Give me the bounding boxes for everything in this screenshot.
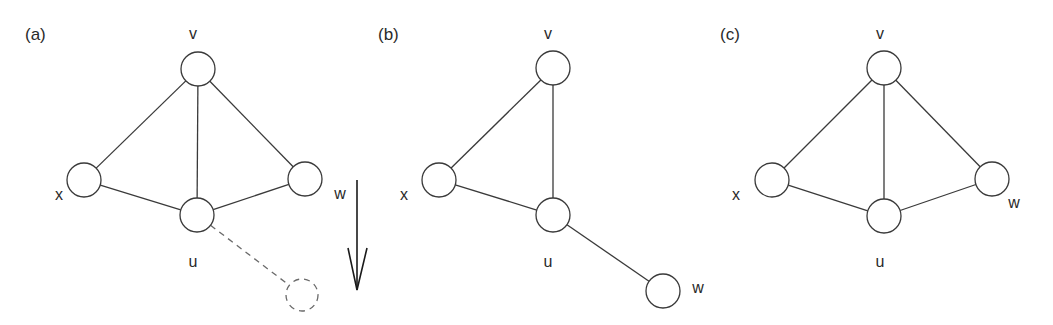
node-label-v: v xyxy=(544,26,552,42)
node-u xyxy=(180,198,214,232)
edge-v-w xyxy=(210,81,293,167)
node-label-u: u xyxy=(876,254,885,270)
panel-label-a: (a) xyxy=(25,26,46,43)
edge-v-x xyxy=(96,81,186,168)
node-label-v: v xyxy=(189,26,197,42)
node-w xyxy=(646,274,680,308)
node-label-w: w xyxy=(1008,195,1020,211)
node-v xyxy=(536,51,570,85)
edge-x-u xyxy=(788,185,868,211)
node-u xyxy=(536,198,570,232)
node-label-u: u xyxy=(544,254,553,270)
panel-label-c: (c) xyxy=(720,26,740,43)
node-label-x: x xyxy=(400,187,408,203)
edge-x-u xyxy=(100,185,181,210)
node-x xyxy=(755,163,789,197)
node-v xyxy=(867,51,901,85)
node-u xyxy=(867,199,901,233)
panel-label-b: (b) xyxy=(378,26,399,43)
edge-x-u xyxy=(455,185,536,210)
node-w xyxy=(975,162,1009,196)
edge-v-w xyxy=(896,80,980,167)
edge-u-w xyxy=(213,184,289,209)
graph-canvas xyxy=(0,0,1053,325)
node-label-w: w xyxy=(334,186,346,202)
panel-c xyxy=(755,51,1009,233)
edge-v-x xyxy=(451,80,541,168)
node-label-x: x xyxy=(732,187,740,203)
node-label-w: w xyxy=(692,280,704,296)
edge-u-w xyxy=(567,225,649,282)
edge-u-w xyxy=(900,185,976,211)
dashed-edge-u xyxy=(211,225,290,285)
node-label-x: x xyxy=(55,187,63,203)
node-x xyxy=(422,163,456,197)
node-label-u: u xyxy=(189,254,198,270)
edge-v-u xyxy=(197,86,198,198)
edge-v-x xyxy=(784,80,872,168)
graph-figure: (a)vxuw(b)vxuw(c)vxuw xyxy=(0,0,1053,325)
ghost-node xyxy=(286,279,318,311)
node-label-v: v xyxy=(876,26,884,42)
down-arrow-icon xyxy=(348,180,367,290)
node-v xyxy=(181,52,215,86)
node-x xyxy=(67,163,101,197)
panel-a xyxy=(67,52,367,311)
node-w xyxy=(288,162,322,196)
